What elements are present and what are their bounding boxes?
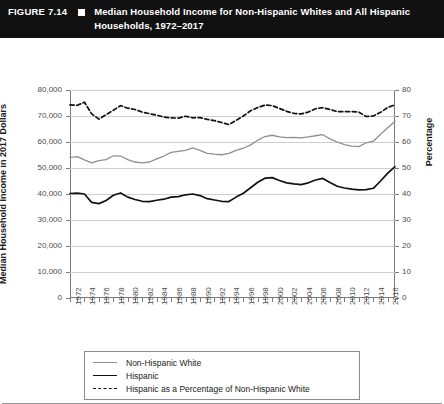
- x-axis-label: 1986: [175, 287, 184, 305]
- x-axis-tick: [388, 298, 389, 302]
- x-axis-label: 1990: [204, 287, 213, 305]
- x-axis-tick: [200, 298, 201, 302]
- y-axis-label-right: 30: [402, 215, 411, 224]
- x-axis-tick: [229, 298, 230, 302]
- y-axis-tick: [395, 142, 399, 143]
- y-axis-tick: [395, 272, 399, 273]
- data-lines: [70, 90, 395, 298]
- legend-item-label: Hispanic: [126, 371, 159, 381]
- y-axis-label-left: 0: [0, 293, 62, 302]
- x-axis-label: 1998: [261, 287, 270, 305]
- y-axis-label-left: 20,000: [0, 241, 62, 250]
- x-axis-tick: [272, 298, 273, 302]
- y-axis-label-right: 50: [402, 163, 411, 172]
- y-axis-title-right: Percentage: [424, 82, 434, 202]
- x-axis-tick: [258, 298, 259, 302]
- x-axis-label: 1980: [131, 287, 140, 305]
- y-axis-tick: [395, 90, 399, 91]
- y-axis-label-right: 20: [402, 241, 411, 250]
- y-axis-label-left: 10,000: [0, 267, 62, 276]
- y-axis-label-left: 70,000: [0, 111, 62, 120]
- square-bullet-icon: [78, 9, 85, 16]
- y-axis-label-right: 60: [402, 137, 411, 146]
- y-axis-tick: [395, 194, 399, 195]
- legend-item-label: Non-Hispanic White: [126, 358, 201, 368]
- line-swatch-icon: [91, 371, 119, 381]
- figure-number: FIGURE 7.14: [8, 5, 67, 17]
- line-swatch-icon: [91, 358, 119, 368]
- series-line: [70, 121, 395, 163]
- x-axis-label: 1988: [189, 287, 198, 305]
- x-axis-tick: [373, 298, 374, 302]
- x-axis-label: 2002: [290, 287, 299, 305]
- y-axis-tick: [395, 246, 399, 247]
- x-axis-tick: [214, 298, 215, 302]
- x-axis-tick: [301, 298, 302, 302]
- x-axis-tick: [316, 298, 317, 302]
- legend-item: Non-Hispanic White: [91, 356, 353, 369]
- legend-item: Hispanic as a Percentage of Non-Hispanic…: [91, 382, 353, 395]
- x-axis-tick: [99, 298, 100, 302]
- x-axis-label: 1978: [117, 287, 126, 305]
- x-axis-label: 2000: [276, 287, 285, 305]
- figure-header: FIGURE 7.14 Median Household Income for …: [0, 0, 444, 38]
- x-axis-label: 1982: [146, 287, 155, 305]
- x-axis-tick: [84, 298, 85, 302]
- x-axis-label: 1994: [232, 287, 241, 305]
- x-axis-tick: [113, 298, 114, 302]
- figure-title: Median Household Income for Non-Hispanic…: [94, 5, 436, 32]
- x-axis-tick: [287, 298, 288, 302]
- y-axis-label-right: 10: [402, 267, 411, 276]
- dashed-line-swatch-icon: [91, 384, 119, 394]
- legend-item-label: Hispanic as a Percentage of Non-Hispanic…: [126, 384, 310, 394]
- x-axis-label: 2016: [391, 287, 400, 305]
- x-axis-label: 1992: [218, 287, 227, 305]
- y-axis-label-left: 80,000: [0, 85, 62, 94]
- x-axis-label: 2010: [348, 287, 357, 305]
- series-line: [70, 167, 395, 204]
- legend-item: Hispanic: [91, 369, 353, 382]
- y-axis-label-right: 80: [402, 85, 411, 94]
- y-axis-label-right: 40: [402, 189, 411, 198]
- y-axis-label-right: 70: [402, 111, 411, 120]
- x-axis-tick: [359, 298, 360, 302]
- x-axis-label: 2008: [334, 287, 343, 305]
- y-axis-label-left: 40,000: [0, 189, 62, 198]
- x-axis-label: 2006: [319, 287, 328, 305]
- y-axis-label-right: 0: [402, 293, 406, 302]
- x-axis-label: 1996: [247, 287, 256, 305]
- x-axis-tick: [157, 298, 158, 302]
- x-axis-label: 1984: [160, 287, 169, 305]
- x-axis-tick: [243, 298, 244, 302]
- x-axis-tick: [344, 298, 345, 302]
- x-axis-label: 2014: [377, 287, 386, 305]
- y-axis-tick: [395, 116, 399, 117]
- y-axis-label-left: 60,000: [0, 137, 62, 146]
- x-axis-label: 2004: [305, 287, 314, 305]
- plot-area: [70, 90, 395, 298]
- y-axis-label-left: 30,000: [0, 215, 62, 224]
- x-axis-tick: [330, 298, 331, 302]
- x-axis-tick: [142, 298, 143, 302]
- chart-legend: Non-Hispanic White Hispanic Hispanic as …: [84, 351, 360, 400]
- x-axis-tick: [171, 298, 172, 302]
- y-axis-label-left: 50,000: [0, 163, 62, 172]
- y-axis-tick: [395, 168, 399, 169]
- x-axis-tick: [70, 298, 71, 302]
- x-axis-label: 1972: [74, 287, 83, 305]
- series-line: [70, 102, 395, 124]
- x-axis-label: 1974: [88, 287, 97, 305]
- x-axis-label: 2012: [362, 287, 371, 305]
- y-axis-tick: [395, 220, 399, 221]
- x-axis-label: 1976: [102, 287, 111, 305]
- chart-body: Median Household Income in 2017 Dollars …: [0, 38, 444, 373]
- x-axis-tick: [186, 298, 187, 302]
- x-axis-tick: [128, 298, 129, 302]
